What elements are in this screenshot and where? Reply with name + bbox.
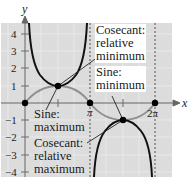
annotation-sine-minimum: Sine: minimum <box>95 66 146 92</box>
y-tick-3: 3 <box>11 45 17 57</box>
y-tick-m3: −3 <box>5 149 17 161</box>
y-tick-1: 1 <box>11 80 17 92</box>
annotation-cosecant-relative-maximum: Cosecant: relative maximum <box>34 137 85 176</box>
point-origin <box>22 100 28 106</box>
annotation-sine-maximum: Sine: maximum <box>34 108 85 134</box>
y-tick-2: 2 <box>11 62 17 74</box>
y-tick-m1: −1 <box>5 114 17 126</box>
y-tick-m2: −2 <box>5 131 17 143</box>
annotation-line: maximum <box>34 163 85 176</box>
point-sine-min <box>120 117 126 123</box>
y-axis-label: y <box>21 2 28 16</box>
y-tick-4: 4 <box>11 28 17 40</box>
y-axis-arrow-icon <box>22 16 28 23</box>
y-tick-m4: −4 <box>5 166 17 178</box>
x-axis-arrow-icon <box>173 100 180 106</box>
annotation-cosecant-relative-minimum: Cosecant: relative minimum <box>95 24 146 63</box>
annotation-line: maximum <box>34 121 85 134</box>
point-2pi <box>152 100 158 106</box>
x-tick-pi: π <box>87 106 93 118</box>
annotation-line: minimum <box>96 79 145 92</box>
annotation-line: minimum <box>96 50 145 63</box>
point-sine-max <box>55 83 61 89</box>
x-axis-label: x <box>181 96 188 110</box>
x-tick-2pi: 2π <box>147 107 159 119</box>
